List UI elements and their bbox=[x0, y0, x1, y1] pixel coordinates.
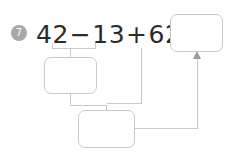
term-62-connector-horizontal bbox=[107, 103, 142, 104]
group-brace-bar bbox=[52, 48, 96, 49]
term-62-connector-vertical bbox=[141, 48, 142, 104]
group-brace-tick-right bbox=[95, 43, 96, 49]
answer-box-bottom[interactable] bbox=[78, 110, 135, 148]
answer-box-middle[interactable] bbox=[44, 57, 97, 94]
problem-number-badge: 7 bbox=[11, 25, 27, 41]
group-brace-tick-left bbox=[52, 43, 53, 49]
equation-plus-operator: + bbox=[125, 20, 148, 49]
middle-to-bottom-connector-segment-2 bbox=[70, 105, 107, 106]
bottom-to-answer-connector-horizontal bbox=[135, 128, 198, 129]
worksheet-canvas: 7 42 − 13 + 62 = bbox=[0, 0, 236, 162]
equation-minus-operator: − bbox=[69, 20, 92, 49]
arrow-head-icon bbox=[193, 51, 201, 59]
bottom-to-answer-connector-vertical bbox=[197, 58, 198, 129]
equation-operand-2: 13 bbox=[92, 20, 125, 49]
answer-box-final[interactable] bbox=[170, 14, 223, 52]
